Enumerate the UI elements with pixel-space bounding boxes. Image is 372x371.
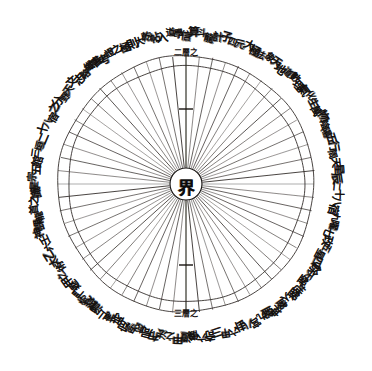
- top-inner-label: 二層之: [174, 49, 198, 57]
- radial-cosmological-diagram: 界 二層之 三層之 大乾帖入道學信算斗龍計子四元大極法象天地道數理氣化生萬物陰陽…: [0, 0, 372, 371]
- hub-center-glyph: 界: [178, 173, 195, 198]
- bottom-inner-label: 三層之: [174, 310, 198, 318]
